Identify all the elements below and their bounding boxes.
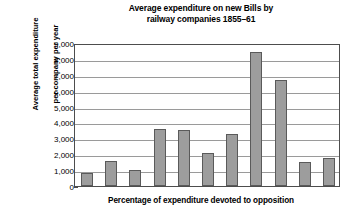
y-axis-tick-label: 9,000 [30,40,74,49]
bar [323,158,335,186]
bar [178,130,190,186]
bar-chart-figure: Average expenditure on new Bills by rail… [0,0,347,219]
y-axis-tick-label: 1,000 [30,167,74,176]
bar [250,52,262,186]
y-axis-tick-label: 4,000 [30,119,74,128]
bar-series [75,45,339,186]
y-axis-tick-mark [74,187,78,188]
bar [154,129,166,186]
y-axis-tick-label: 7,000 [30,71,74,80]
y-axis-tick-label: 0 [30,183,74,192]
chart-title: Average expenditure on new Bills by rail… [60,3,342,25]
plot-area [74,44,340,187]
chart-title-line-1: Average expenditure on new Bills by [60,3,342,14]
bar [299,162,311,186]
bar [129,170,141,186]
bar [202,153,214,186]
bar [81,173,93,186]
chart-title-line-2: railway companies 1855–61 [60,14,342,25]
bar [105,161,117,186]
y-axis-tick-label: 2,000 [30,151,74,160]
y-axis-tick-label: 5,000 [30,103,74,112]
x-axis-title: Percentage of expenditure devoted to opp… [60,196,342,205]
y-axis-tick-label: 6,000 [30,87,74,96]
y-axis-tick-label: 8,000 [30,55,74,64]
bar [226,134,238,186]
y-axis-tick-labels: 9,0008,0007,0006,0005,0004,0003,0002,000… [22,44,74,187]
y-axis-tick-label: 3,000 [30,135,74,144]
bar [275,80,287,186]
